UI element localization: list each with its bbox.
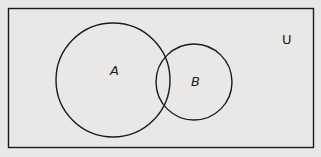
venn-diagram: A B U — [0, 0, 321, 157]
set-a-label: A — [109, 63, 119, 78]
universe-rectangle — [9, 9, 314, 148]
universe-label: U — [282, 32, 292, 47]
set-b-label: B — [191, 74, 200, 89]
set-a-circle — [56, 23, 170, 137]
